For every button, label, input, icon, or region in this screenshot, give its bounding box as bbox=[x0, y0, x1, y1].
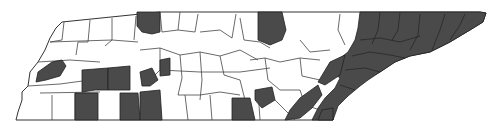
county-shaded bbox=[137, 12, 160, 34]
county-shaded bbox=[258, 12, 286, 45]
county-shaded bbox=[120, 93, 140, 120]
county-shaded bbox=[160, 58, 170, 76]
county-shaded bbox=[75, 93, 98, 120]
county-shaded bbox=[108, 66, 130, 90]
tennessee-county-map bbox=[0, 0, 499, 131]
county-shaded bbox=[140, 90, 162, 120]
county-shaded bbox=[82, 68, 108, 92]
